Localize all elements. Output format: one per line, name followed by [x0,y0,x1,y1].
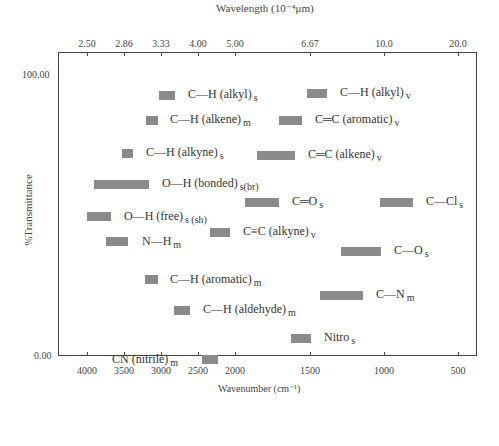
band-bar [380,198,413,207]
top-tick [384,52,385,56]
top-tick [161,52,162,56]
y-tick-label-top: 100.00 [22,69,50,80]
band-label: C—H (alkyne)s [146,146,224,159]
band-bar [159,91,175,100]
band-bar [106,237,128,246]
top-tick-label: 6.67 [301,38,319,49]
bottom-tick-label: 2500 [188,365,208,376]
band-label: Nitros [324,331,355,344]
band-bar [145,275,158,284]
band-bar [210,228,230,237]
top-tick-label: 2.50 [78,38,96,49]
top-tick [124,52,125,56]
y-axis-title: %Transmittance [22,174,34,246]
band-label: C═C (alkene)v [308,148,382,161]
top-tick-label: 4.00 [189,38,207,49]
band-bar [174,306,190,315]
band-label: C—H (aldehyde)m [203,303,296,316]
band-bar [122,149,133,158]
band-bar [341,247,381,256]
top-tick-label: 5.00 [226,38,244,49]
band-bar [257,151,295,160]
bottom-tick-label: 500 [451,365,466,376]
band-label: C═Os [292,195,323,208]
band-label: C—Os [394,244,429,257]
bottom-tick-label: 1500 [300,365,320,376]
top-tick [198,52,199,56]
y-tick-label-bottom: 0.00 [34,350,52,361]
band-label: C—H (alkyl)s [188,88,258,101]
band-label: C≡C (alkyne)v [243,225,316,238]
band-label: C—Cls [426,195,463,208]
band-bar [245,198,279,207]
top-tick-label: 2.86 [115,38,133,49]
band-label: C—H (alkene)m [170,113,251,126]
band-bar [291,334,311,343]
top-tick [235,52,236,56]
band-label: N—Hm [142,235,181,248]
bottom-tick [384,352,385,356]
band-bar [146,116,158,125]
top-axis-title: Wavelength (10⁻⁴μm) [216,2,314,15]
bottom-tick [458,352,459,356]
band-bar [320,291,363,300]
band-label: O—H (free)s (sh) [124,210,207,223]
bottom-tick [310,352,311,356]
top-tick-label: 3.33 [152,38,170,49]
band-bar [307,89,327,98]
top-tick [310,52,311,56]
band-bar [279,116,302,125]
top-tick [87,52,88,56]
bottom-tick-label: 3500 [114,365,134,376]
band-bar [202,355,218,364]
bottom-tick [235,352,236,356]
bottom-tick-label: 1000 [374,365,394,376]
band-label: C—H (aromatic)m [170,273,261,286]
bottom-tick [87,352,88,356]
top-tick-label: 20.0 [449,38,467,49]
bottom-tick [198,352,199,356]
bottom-axis-title: Wavenumber (cm⁻¹) [218,383,300,394]
band-bar [87,212,111,221]
band-label: C═C (aromatic)v [315,113,399,126]
bottom-tick-label: 4000 [77,365,97,376]
bottom-tick-label: 3000 [151,365,171,376]
top-tick [458,52,459,56]
band-label: C—H (alkyl)v [340,86,411,99]
band-label: C—Nm [376,288,414,301]
bottom-tick-label: 2000 [225,365,245,376]
band-label: O—H (bonded)s(br) [162,177,259,190]
band-bar [94,180,149,189]
band-label: CN (nitrile)m [112,353,178,366]
top-tick-label: 10.0 [375,38,393,49]
